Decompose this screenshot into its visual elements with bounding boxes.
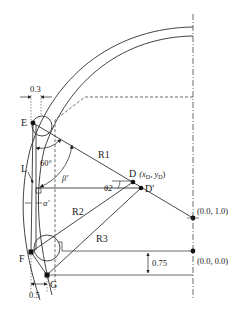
point-D [131, 180, 136, 185]
label-angle-60: 60° [40, 158, 52, 168]
R1-line [33, 123, 193, 218]
point-origin-bottom [191, 249, 196, 254]
link-E-F [31, 123, 33, 252]
R2-line [31, 182, 133, 252]
label-angle-beta: β' [61, 173, 68, 183]
label-origin-top: (0.0, 1.0) [197, 206, 228, 216]
label-R2: R2 [72, 206, 84, 217]
dim-vertical-label: 0.75 [152, 258, 167, 268]
angle-60-arc [36, 139, 61, 148]
dim-bottom-label: 0.5 [29, 290, 40, 300]
point-D-prime [139, 186, 144, 191]
label-L: L [21, 163, 27, 174]
point-E [31, 121, 36, 126]
label-angle-alpha: α' [43, 198, 49, 208]
angle-theta2-arc [118, 181, 120, 188]
label-F: F [19, 253, 25, 264]
label-E: E [21, 117, 27, 128]
label-D-prime: D' [145, 183, 154, 194]
inner-arc [38, 36, 193, 295]
label-origin-bottom: (0.0, 0.0) [197, 256, 228, 266]
point-G [45, 273, 50, 278]
point-F [29, 250, 34, 255]
dashed-frame [55, 97, 193, 290]
label-angle-theta2: θ2 [104, 183, 113, 193]
dim-top-label: 0.3 [30, 84, 41, 94]
label-R1: R1 [98, 149, 110, 160]
circle-F [34, 235, 60, 261]
label-R3: R3 [96, 233, 108, 244]
geometry-diagram: 0.3 0.75 0.5 E F G L D(xD, yD) [0, 0, 247, 314]
label-G: G [50, 279, 57, 290]
label-D: D(xD, yD) [129, 168, 166, 180]
